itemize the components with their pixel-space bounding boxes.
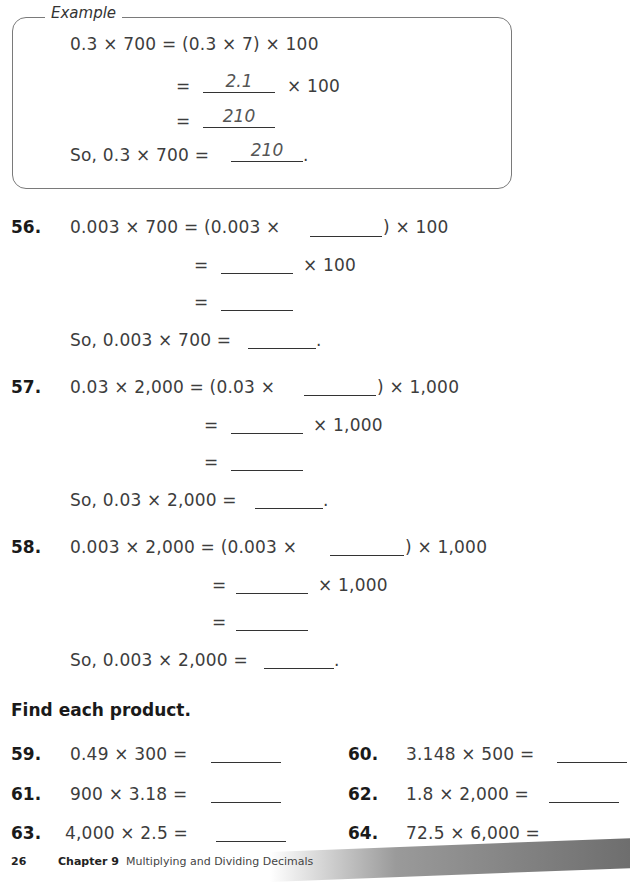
example-line-2-answer: 2.1 <box>203 71 275 91</box>
example-line-4-prefix: So, 0.3 × 700 = <box>70 145 209 165</box>
problem-57-line-2-suffix: × 1,000 <box>313 415 383 435</box>
problem-62-answer-blank[interactable] <box>549 802 619 803</box>
problem-57-blank-4[interactable] <box>255 508 323 509</box>
section-heading: Find each product. <box>11 700 191 720</box>
problem-58-line-2-suffix: × 1,000 <box>318 575 388 595</box>
problem-63-expr: 4,000 × 2.5 = <box>65 823 188 843</box>
problem-56-blank-1[interactable] <box>310 236 382 237</box>
problem-56-line-3-eq: = <box>194 292 208 312</box>
problem-57-line-2-eq: = <box>204 415 218 435</box>
example-line-3-answer: 210 <box>203 106 275 126</box>
problem-56-line-4-prefix: So, 0.003 × 700 = <box>70 330 231 350</box>
problem-59-answer-blank[interactable] <box>211 762 281 763</box>
problem-56-blank-2[interactable] <box>221 273 293 274</box>
example-line-4-suffix: . <box>303 145 309 165</box>
problem-61-answer-blank[interactable] <box>211 802 281 803</box>
problem-58-line-1-right: ) × 1,000 <box>405 537 487 557</box>
problem-64-expr: 72.5 × 6,000 = <box>406 823 540 843</box>
problem-60-answer-blank[interactable] <box>557 762 627 763</box>
problem-58-line-3-eq: = <box>212 612 226 632</box>
problem-57-line-4-suffix: . <box>323 490 329 510</box>
problem-60-number: 60. <box>348 744 378 764</box>
problem-57-blank-3[interactable] <box>231 470 303 471</box>
problem-56-blank-4[interactable] <box>248 348 316 349</box>
problem-58-blank-3[interactable] <box>236 630 308 631</box>
problem-57-blank-2[interactable] <box>231 433 303 434</box>
problem-58-blank-4[interactable] <box>264 668 334 669</box>
problem-58-line-4-prefix: So, 0.003 × 2,000 = <box>70 650 248 670</box>
example-line-2-suffix: × 100 <box>287 76 340 96</box>
example-label: Example <box>45 4 122 22</box>
problem-59-expr: 0.49 × 300 = <box>70 744 187 764</box>
problem-57-line-1-left: 0.03 × 2,000 = (0.03 × <box>70 377 275 397</box>
problem-56-line-1-left: 0.003 × 700 = (0.003 × <box>70 217 281 237</box>
problem-63-number: 63. <box>11 823 41 843</box>
example-line-1: 0.3 × 700 = (0.3 × 7) × 100 <box>70 34 319 54</box>
example-line-2-blank <box>203 92 275 93</box>
problem-56-line-2-suffix: × 100 <box>303 255 356 275</box>
problem-56-line-1-right: ) × 100 <box>383 217 449 237</box>
problem-64-number: 64. <box>348 823 378 843</box>
problem-56-number: 56. <box>11 217 41 237</box>
chapter-title: Multiplying and Dividing Decimals <box>126 855 313 868</box>
problem-60-expr: 3.148 × 500 = <box>406 744 534 764</box>
problem-58-line-2-eq: = <box>212 575 226 595</box>
problem-58-number: 58. <box>11 537 41 557</box>
problem-56-line-4-suffix: . <box>316 330 322 350</box>
problem-56-line-2-eq: = <box>194 255 208 275</box>
example-line-4-answer: 210 <box>231 140 303 160</box>
example-line-3-eq: = <box>176 111 190 131</box>
footer-decorative-band <box>270 838 630 882</box>
example-line-3-blank <box>203 127 275 128</box>
problem-57-line-4-prefix: So, 0.03 × 2,000 = <box>70 490 237 510</box>
problem-57-line-1-right: ) × 1,000 <box>377 377 459 397</box>
page-number: 26 <box>11 855 26 868</box>
problem-62-expr: 1.8 × 2,000 = <box>406 784 529 804</box>
problem-58-blank-1[interactable] <box>330 555 404 556</box>
problem-61-number: 61. <box>11 784 41 804</box>
problem-57-number: 57. <box>11 377 41 397</box>
problem-58-blank-2[interactable] <box>236 593 308 594</box>
problem-62-number: 62. <box>348 784 378 804</box>
problem-57-line-3-eq: = <box>204 452 218 472</box>
problem-59-number: 59. <box>11 744 41 764</box>
problem-57-blank-1[interactable] <box>304 395 376 396</box>
problem-58-line-1-left: 0.003 × 2,000 = (0.003 × <box>70 537 297 557</box>
chapter-label: Chapter 9 <box>58 855 119 868</box>
example-line-2-eq: = <box>176 76 190 96</box>
problem-63-answer-blank[interactable] <box>216 841 286 842</box>
problem-56-blank-3[interactable] <box>221 310 293 311</box>
problem-58-line-4-suffix: . <box>334 650 340 670</box>
problem-61-expr: 900 × 3.18 = <box>70 784 187 804</box>
example-line-4-blank <box>231 161 303 162</box>
